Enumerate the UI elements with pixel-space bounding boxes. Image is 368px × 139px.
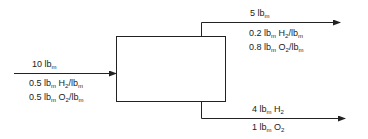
input-total-mass-label: 10 lbm xyxy=(32,59,57,69)
mass-balance-diagram: 10 lbm 0.5 lbm H2/lbm 0.5 lbm O2/lbm 5 l… xyxy=(0,0,368,139)
input-h2-fraction-label: 0.5 lbm H2/lbm xyxy=(29,78,83,88)
top-output-total-mass-label: 5 lbm xyxy=(250,8,270,18)
top-output-h2-fraction-label: 0.2 lbm H2/lbm xyxy=(249,28,303,38)
bottom-output-h2-mass-label: 4 lbm H2 xyxy=(252,104,284,114)
input-o2-fraction-label: 0.5 lbm O2/lbm xyxy=(29,92,83,102)
bottom-output-o2-mass-label: 1 lbm O2 xyxy=(252,122,284,132)
top-output-o2-fraction-label: 0.8 lbm O2/lbm xyxy=(249,42,303,52)
process-unit-box xyxy=(117,37,226,102)
